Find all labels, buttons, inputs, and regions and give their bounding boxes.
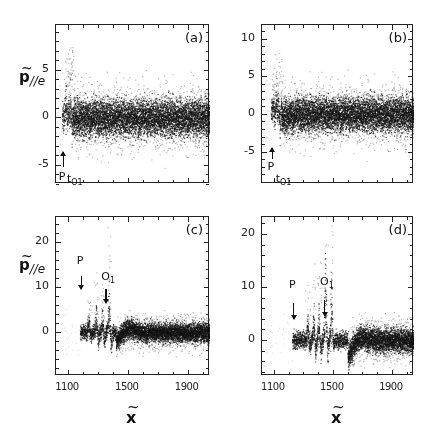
y-tick-mark [262, 46, 265, 47]
y-tick-label: 10 [25, 280, 49, 291]
annotation-p: P [59, 171, 66, 182]
x-tick-mark [188, 370, 189, 375]
annotation-text: P [59, 170, 66, 183]
y-tick-mark [206, 296, 209, 297]
y-tick-mark [408, 287, 413, 288]
x-tick-mark [289, 372, 290, 375]
x-tick-mark [113, 372, 114, 375]
y-tick-mark [56, 127, 59, 128]
y-tick-mark [410, 99, 413, 100]
y-tick-mark [56, 98, 59, 99]
y-tick-label: 5 [231, 69, 255, 80]
x-tick-mark [203, 217, 204, 220]
y-tick-mark [262, 129, 265, 130]
x-tick-mark [407, 372, 408, 375]
annotation-text: O [320, 275, 329, 288]
y-tick-mark [56, 296, 59, 297]
y-tick-mark [56, 136, 59, 137]
y-tick-mark [56, 233, 59, 234]
y-tick-mark [408, 39, 413, 40]
y-tick-mark [56, 242, 61, 243]
y-tick-mark [262, 76, 267, 77]
y-tick-mark [262, 84, 265, 85]
y-tick-mark [206, 368, 209, 369]
y-tick-mark [408, 340, 413, 341]
x-tick-mark [407, 180, 408, 183]
y-tick-label: 0 [231, 333, 255, 344]
y-tick-mark [410, 106, 413, 107]
y-tick-mark [56, 108, 59, 109]
annotation-text: P [77, 254, 84, 267]
y-tick-mark [56, 323, 59, 324]
y-tick-mark [56, 70, 61, 71]
x-tick-label: 1900 [371, 382, 411, 392]
y-tick-mark [206, 323, 209, 324]
x-tick-mark [303, 25, 304, 28]
y-tick-mark [206, 108, 209, 109]
x-tick-mark [128, 370, 129, 375]
y-tick-mark [262, 69, 265, 70]
y-tick-mark [204, 242, 209, 243]
y-tick-mark [262, 319, 265, 320]
x-tick-mark [203, 25, 204, 28]
x-tick-mark [68, 217, 69, 222]
y-tick-label: 0 [231, 107, 255, 118]
y-tick-mark [262, 361, 265, 362]
x-tick-mark [377, 372, 378, 375]
y-tick-mark [56, 51, 59, 52]
y-tick-mark [262, 245, 265, 246]
scatter-plot [262, 217, 414, 376]
x-tick-label: 1100 [253, 382, 293, 392]
y-tick-mark [56, 305, 59, 306]
y-tick-mark [410, 245, 413, 246]
y-tick-mark [262, 372, 265, 373]
y-axis-label: ~p//e [19, 70, 45, 87]
arrow-down-icon [81, 276, 82, 290]
y-tick-mark [206, 269, 209, 270]
y-tick-mark [206, 41, 209, 42]
annotation-text: P [268, 160, 275, 173]
x-tick-mark [333, 370, 334, 375]
y-tick-mark [410, 54, 413, 55]
y-tick-mark [206, 278, 209, 279]
x-tick-mark [68, 25, 69, 30]
y-tick-mark [262, 287, 267, 288]
x-tick-mark [303, 180, 304, 183]
annotation-subscript: O1 [280, 178, 291, 187]
y-tick-mark [56, 350, 59, 351]
x-tick-mark [113, 25, 114, 28]
y-tick-mark [410, 223, 413, 224]
y-tick-mark [206, 174, 209, 175]
tilde-accent: ~ [21, 249, 33, 263]
x-tick-mark [173, 25, 174, 28]
x-tick-label: 1500 [107, 382, 147, 392]
y-tick-label: 10 [231, 32, 255, 43]
y-tick-mark [262, 255, 265, 256]
y-tick-mark [204, 117, 209, 118]
y-tick-mark [56, 359, 59, 360]
y-tick-mark [262, 31, 265, 32]
x-tick-mark [128, 25, 129, 30]
y-tick-mark [408, 152, 413, 153]
y-tick-mark [204, 70, 209, 71]
x-tick-mark [274, 178, 275, 183]
y-tick-mark [206, 79, 209, 80]
y-tick-mark [206, 341, 209, 342]
x-tick-mark [83, 180, 84, 183]
y-tick-mark [410, 351, 413, 352]
y-tick-mark [262, 266, 265, 267]
x-tick-mark [333, 178, 334, 183]
y-tick-mark [206, 155, 209, 156]
y-tick-mark [206, 233, 209, 234]
y-tick-mark [410, 308, 413, 309]
y-tick-mark [262, 114, 267, 115]
y-tick-mark [262, 167, 265, 168]
x-tick-mark [98, 372, 99, 375]
plot-panel-d: (d)PO1 [261, 216, 413, 375]
tilde-accent: ~ [332, 400, 345, 415]
y-tick-mark [206, 60, 209, 61]
x-tick-mark [274, 25, 275, 30]
y-tick-mark [206, 305, 209, 306]
arrow-up-icon [272, 148, 273, 159]
y-tick-mark [56, 41, 59, 42]
